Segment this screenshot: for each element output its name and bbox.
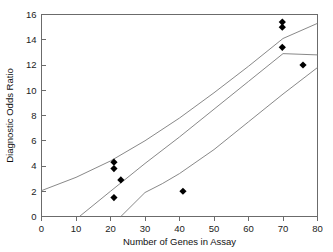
scatter-plot-svg: 010203040506070800246810121416 Number of…: [0, 0, 333, 252]
y-tick-label: 4: [31, 160, 36, 171]
regression-line-group: [79, 54, 317, 217]
regression-line: [79, 54, 317, 217]
data-point-marker: [179, 188, 186, 195]
data-point-marker: [299, 61, 306, 68]
x-tick-label: 40: [174, 223, 185, 234]
chart-container: 010203040506070800246810121416 Number of…: [0, 0, 333, 252]
axis-titles-group: Number of Genes in AssayDiagnostic Odds …: [4, 68, 236, 247]
x-tick-label: 30: [140, 223, 151, 234]
x-tick-label: 10: [71, 223, 82, 234]
data-point-marker: [110, 159, 117, 166]
confidence-bands-group: [42, 23, 318, 216]
data-points-group: [110, 18, 306, 201]
y-tick-label: 12: [26, 59, 37, 70]
y-tick-label: 0: [31, 211, 36, 222]
y-tick-label: 2: [31, 186, 36, 197]
data-point-marker: [279, 24, 286, 31]
data-point-marker: [110, 194, 117, 201]
data-point-marker: [279, 44, 286, 51]
y-tick-label: 16: [26, 9, 37, 20]
confidence-band-line: [42, 23, 318, 190]
y-axis-title: Diagnostic Odds Ratio: [4, 68, 15, 163]
x-tick-label: 20: [105, 223, 116, 234]
x-tick-label: 80: [312, 223, 323, 234]
x-tick-label: 50: [209, 223, 220, 234]
x-tick-label: 70: [278, 223, 289, 234]
y-tick-label: 10: [26, 85, 37, 96]
y-tick-label: 6: [31, 135, 36, 146]
x-tick-label: 0: [39, 223, 44, 234]
y-tick-label: 8: [31, 110, 36, 121]
x-axis-title: Number of Genes in Assay: [123, 236, 236, 247]
y-tick-label: 14: [26, 34, 37, 45]
confidence-band-line: [121, 68, 318, 217]
data-point-marker: [117, 176, 124, 183]
data-point-marker: [110, 165, 117, 172]
x-tick-label: 60: [243, 223, 254, 234]
plot-frame: [42, 15, 318, 217]
